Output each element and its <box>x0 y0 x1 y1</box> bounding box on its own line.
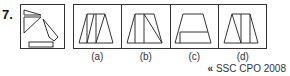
option-b-figure-icon <box>122 5 169 50</box>
option-d-figure-icon <box>219 5 266 50</box>
option-labels: (a) (b) (c) (d) <box>73 51 267 62</box>
source-citation: « SSC CPO 2008 <box>208 63 286 74</box>
option-b[interactable] <box>122 5 170 48</box>
question-figure <box>20 4 65 49</box>
option-d-label: (d) <box>219 51 268 62</box>
option-d[interactable] <box>219 5 266 48</box>
option-c-label: (c) <box>170 51 219 62</box>
question-number: 7. <box>2 7 13 22</box>
source-text: SSC CPO 2008 <box>216 63 286 74</box>
option-c[interactable] <box>171 5 219 48</box>
option-a[interactable] <box>74 5 122 48</box>
option-b-label: (b) <box>122 51 171 62</box>
option-a-label: (a) <box>73 51 122 62</box>
double-chevron-icon: « <box>208 63 214 74</box>
option-c-figure-icon <box>171 5 218 50</box>
option-a-figure-icon <box>74 5 121 50</box>
answer-options <box>73 4 267 49</box>
question-pieces-icon <box>21 5 66 50</box>
